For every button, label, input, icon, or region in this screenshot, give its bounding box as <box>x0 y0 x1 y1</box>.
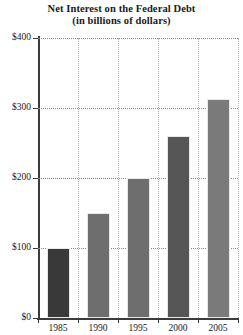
x-axis-tick <box>238 318 239 323</box>
plot-area <box>38 38 238 318</box>
bar-1990 <box>87 213 110 318</box>
gridline-vertical <box>198 38 199 318</box>
x-axis-label-2000: 2000 <box>158 323 198 334</box>
y-axis-label: $200 <box>0 173 31 183</box>
y-axis-label: $0 <box>0 313 31 323</box>
gridline-horizontal <box>38 38 238 39</box>
gridline-vertical <box>78 38 79 318</box>
y-axis-label: $400 <box>0 33 31 43</box>
y-axis-tick <box>33 248 38 249</box>
x-axis-label-1990: 1990 <box>78 323 118 334</box>
bar-2000 <box>167 136 190 318</box>
gridline-vertical <box>118 38 119 318</box>
y-axis-tick <box>33 38 38 39</box>
chart-title-line-1: Net Interest on the Federal Debt <box>0 3 243 15</box>
y-axis-tick <box>33 178 38 179</box>
x-axis-label-2005: 2005 <box>198 323 238 334</box>
y-axis-label: $100 <box>0 243 31 253</box>
x-axis-tick-origin <box>38 318 39 323</box>
bar-1985 <box>47 248 70 318</box>
gridline-vertical <box>158 38 159 318</box>
y-axis-tick <box>33 108 38 109</box>
x-axis-label-1995: 1995 <box>118 323 158 334</box>
chart-title-line-2: (in billions of dollars) <box>0 15 243 27</box>
chart-title: Net Interest on the Federal Debt (in bil… <box>0 3 243 27</box>
y-axis-label: $300 <box>0 103 31 113</box>
x-axis-label-1985: 1985 <box>38 323 78 334</box>
gridline-vertical <box>238 38 239 318</box>
bar-2005 <box>207 99 230 318</box>
bar-chart: Net Interest on the Federal Debt (in bil… <box>0 0 243 335</box>
x-axis-line <box>37 318 239 320</box>
bar-1995 <box>127 178 150 318</box>
